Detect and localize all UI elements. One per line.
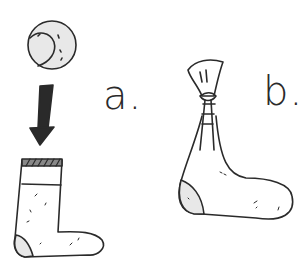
- tennis-ball-icon: [28, 21, 76, 69]
- panel-label-b: b.: [263, 68, 303, 114]
- down-arrow-icon: [30, 85, 54, 145]
- sock-a: [14, 159, 103, 257]
- drawing: [0, 0, 307, 266]
- illustration: a. b.: [0, 0, 307, 266]
- panel-label-a: a.: [103, 72, 142, 118]
